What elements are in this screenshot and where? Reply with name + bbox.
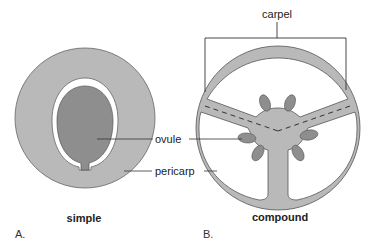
caption-compound: compound [252,211,308,223]
panel-label-a: A. [15,228,25,240]
central-axis [259,111,297,149]
label-pericarp: pericarp [155,165,195,177]
label-ovule: ovule [155,133,181,145]
panel-label-b: B. [203,228,213,240]
caption-simple: simple [67,212,102,224]
simple-ovary [15,48,155,188]
ovary-diagram: carpel ovule pericarp simple compound A.… [0,0,370,249]
label-carpel: carpel [262,8,292,20]
compound-ovary [196,22,360,210]
